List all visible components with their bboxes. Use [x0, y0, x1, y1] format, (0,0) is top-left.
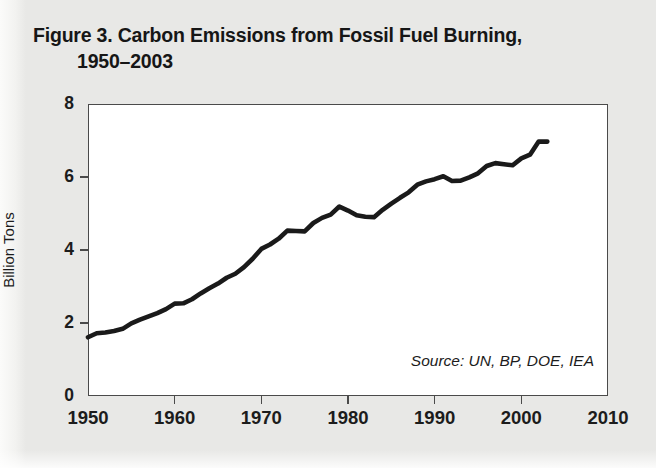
x-tick-mark	[521, 396, 523, 404]
y-tick-mark	[80, 176, 88, 178]
figure-title: Figure 3. Carbon Emissions from Fossil F…	[33, 22, 633, 74]
x-tick-mark	[347, 396, 349, 404]
y-tick-label: 8	[64, 93, 74, 114]
x-tick-label: 1970	[241, 407, 282, 429]
x-tick-label: 1960	[154, 407, 195, 429]
x-tick-mark	[174, 396, 176, 404]
x-tick-label: 2000	[501, 407, 542, 429]
page-bottom-margin	[0, 450, 656, 468]
figure-title-line-1: Figure 3. Carbon Emissions from Fossil F…	[33, 22, 633, 48]
x-tick-label: 2010	[587, 407, 628, 429]
y-tick-label: 6	[64, 166, 74, 187]
y-tick-label: 0	[64, 385, 74, 406]
x-tick-label: 1980	[327, 407, 368, 429]
figure-title-line-2: 1950–2003	[33, 48, 633, 74]
source-note: Source: UN, BP, DOE, IEA	[411, 352, 594, 370]
x-tick-label: 1990	[414, 407, 455, 429]
y-axis-title: Billion Tons	[0, 212, 17, 288]
emissions-line	[88, 142, 547, 338]
y-tick-mark	[80, 322, 88, 324]
y-tick-label: 2	[64, 312, 74, 333]
x-tick-mark	[261, 396, 263, 404]
plot-area: 02468 Billion Tons 195019601970198019902…	[88, 104, 608, 396]
y-tick-mark	[80, 249, 88, 251]
x-tick-label: 1950	[67, 407, 108, 429]
figure-container: Figure 3. Carbon Emissions from Fossil F…	[0, 0, 656, 468]
y-tick-label: 4	[64, 239, 74, 260]
x-tick-mark	[434, 396, 436, 404]
